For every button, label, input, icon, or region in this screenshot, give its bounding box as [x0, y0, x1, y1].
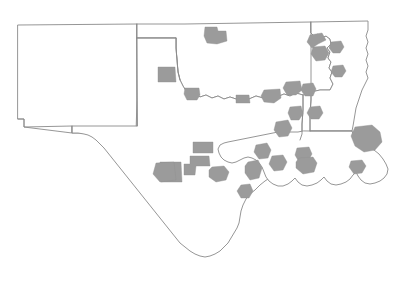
highlight-texas-abilene[interactable] — [193, 142, 213, 153]
highlight-texas-wichita-falls[interactable] — [236, 95, 250, 103]
south-central-us-map — [0, 0, 410, 281]
highlight-texas-panhandle-amarillo[interactable] — [158, 67, 176, 82]
map-container — [0, 0, 410, 281]
highlight-texas-lubbock[interactable] — [184, 88, 200, 100]
state-new-mexico[interactable] — [18, 24, 137, 133]
